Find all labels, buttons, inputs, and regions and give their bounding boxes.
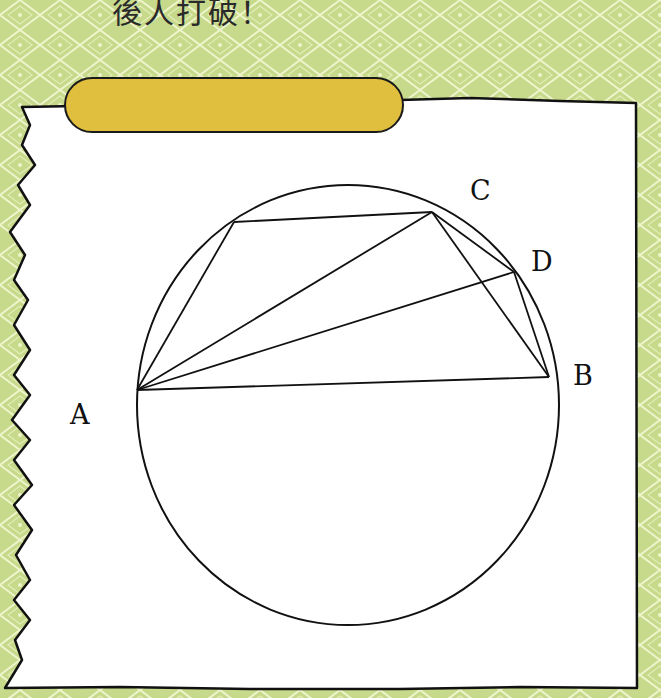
segment-AB	[137, 377, 549, 390]
point-label-b: B	[573, 362, 593, 389]
segment-EC	[234, 212, 432, 222]
segment-CD	[432, 212, 514, 272]
circle	[137, 185, 559, 625]
segment-AC	[137, 212, 432, 390]
segment-AD	[137, 272, 514, 390]
point-label-a: A	[70, 401, 90, 428]
point-label-c: C	[470, 177, 491, 204]
point-label-d: D	[531, 248, 553, 275]
geometry-diagram	[0, 0, 661, 698]
